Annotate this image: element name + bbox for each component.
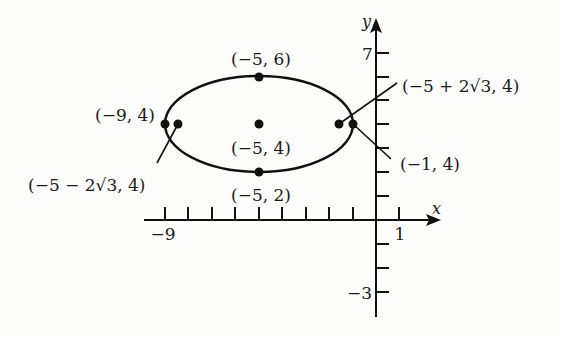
leader-right-focus [339,83,397,124]
coordinate-plane: y x 7 −3 −9 1 (−5, 6) (−5, 4) (−5, 2) (−… [0,0,564,339]
point-right-focus [335,120,344,129]
label-right-focus: (−5 + 2√3, 4) [402,76,519,96]
leader-right-vertex [353,124,391,159]
x-axis-label: x [432,199,441,218]
y-axis-ticks [376,53,389,292]
point-bottom-vertex [255,168,264,177]
label-right-vertex: (−1, 4) [400,154,460,174]
y-axis-label: y [361,12,372,31]
point-left-focus [174,120,183,129]
y-tick-label-top: 7 [362,44,373,64]
points [161,73,358,177]
point-top-vertex [255,73,264,82]
x-axis-ticks [165,207,399,220]
x-tick-label-right: 1 [395,224,406,244]
point-left-vertex [161,120,170,129]
label-top-vertex: (−5, 6) [231,49,291,69]
point-center [255,120,264,129]
y-tick-label-bottom: −3 [347,283,372,303]
point-right-vertex [349,120,358,129]
label-left-vertex: (−9, 4) [95,105,155,125]
label-center: (−5, 4) [231,138,291,158]
ellipse-diagram: y x 7 −3 −9 1 (−5, 6) (−5, 4) (−5, 2) (−… [0,0,564,339]
leader-left-focus [157,124,178,163]
x-tick-label-left: −9 [150,224,175,244]
label-bottom-vertex: (−5, 2) [231,185,291,205]
label-left-focus: (−5 − 2√3, 4) [28,175,145,195]
